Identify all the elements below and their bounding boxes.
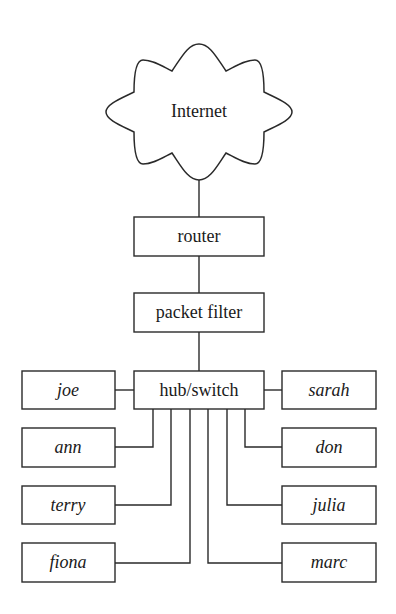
host-ann: ann	[22, 428, 115, 467]
edge-hub-terry	[115, 409, 171, 505]
host-label: joe	[55, 380, 79, 400]
host-marc: marc	[282, 543, 376, 582]
host-label: ann	[55, 437, 82, 457]
router-node: router	[134, 217, 264, 256]
host-label: sarah	[308, 380, 349, 400]
host-terry: terry	[22, 486, 115, 524]
host-label: fiona	[49, 552, 86, 572]
internet-node: Internet	[106, 44, 292, 180]
router-label: router	[178, 226, 221, 246]
internet-label: Internet	[171, 101, 227, 121]
host-julia: julia	[282, 486, 376, 524]
edge-hub-ann	[115, 409, 153, 447]
host-fiona: fiona	[22, 543, 115, 582]
hub-switch-label: hub/switch	[160, 380, 239, 400]
host-label: julia	[310, 495, 345, 515]
hub-switch-node: hub/switch	[134, 371, 264, 409]
edge-hub-julia	[227, 409, 282, 505]
host-label: terry	[51, 495, 86, 515]
packet-filter-label: packet filter	[156, 302, 242, 322]
host-don: don	[282, 428, 376, 467]
edge-hub-don	[245, 409, 282, 447]
host-label: marc	[311, 552, 347, 572]
packet-filter-node: packet filter	[134, 293, 264, 332]
network-diagram: Internet router packet filter hub/switch…	[0, 0, 396, 614]
host-joe: joe	[22, 371, 115, 409]
host-label: don	[316, 437, 343, 457]
host-sarah: sarah	[282, 371, 376, 409]
